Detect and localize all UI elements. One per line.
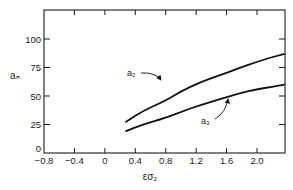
arrow-icon [141, 73, 161, 80]
arrow-icon [215, 99, 228, 119]
y-tick-label: 25 [30, 119, 41, 130]
y-tick-label: 0 [36, 143, 41, 154]
x-tick-label: 2.0 [250, 155, 263, 166]
y-axis-label: aₙ [10, 70, 20, 81]
x-axis-ticks: −0.8−0.400.40.81.21.62.0 [35, 10, 264, 166]
x-tick-label: 1.6 [220, 155, 233, 166]
y-axis-ticks: 0255075100 [25, 34, 285, 155]
series-label-a3: a₃ [201, 116, 210, 126]
x-tick-label: 0 [102, 155, 107, 166]
series-annotations: a₂a₃ [127, 68, 228, 126]
y-tick-label: 50 [30, 91, 41, 102]
x-tick-label: −0.8 [35, 155, 54, 166]
x-axis-label: εσ₂ [143, 171, 158, 182]
plot-frame [44, 10, 285, 153]
x-tick-label: 0.8 [159, 155, 172, 166]
x-tick-label: 1.2 [190, 155, 203, 166]
x-tick-label: 0.4 [129, 155, 142, 166]
chart: −0.8−0.400.40.81.21.62.0 0255075100 a₂a₃… [0, 0, 293, 190]
y-tick-label: 75 [30, 62, 41, 73]
series-label-a2: a₂ [127, 68, 136, 78]
x-tick-label: −0.4 [65, 155, 84, 166]
y-tick-label: 100 [25, 34, 41, 45]
